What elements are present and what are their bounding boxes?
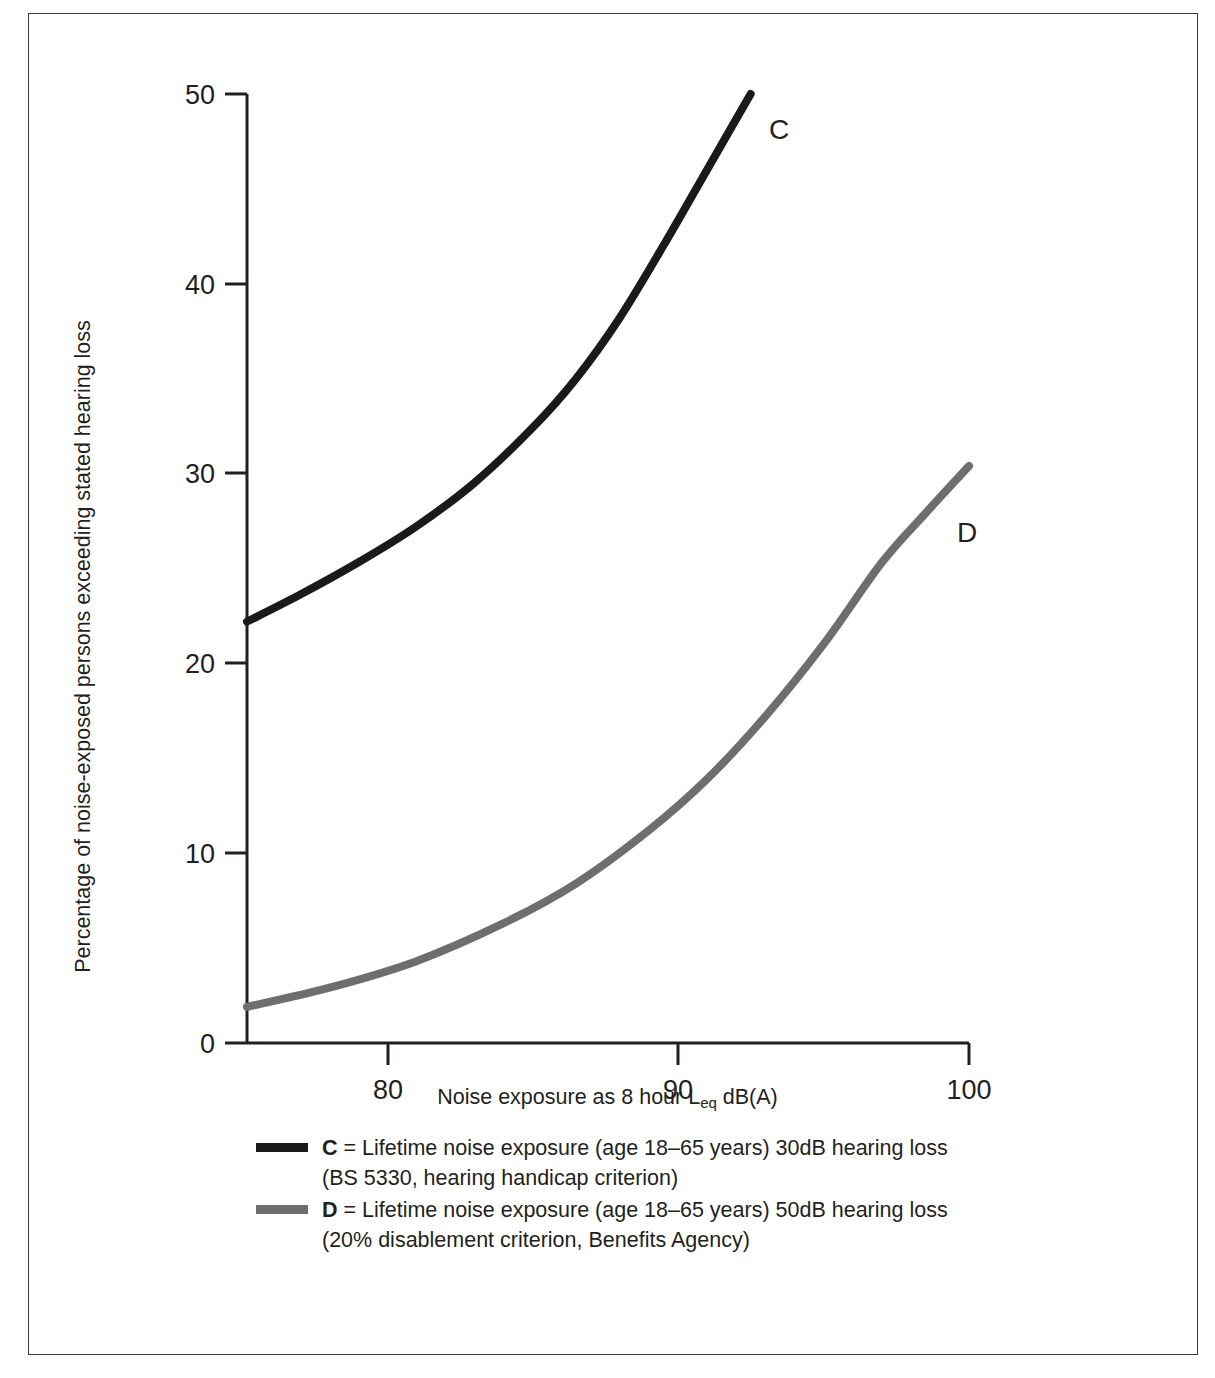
legend-equals-c: =	[338, 1136, 363, 1160]
x-axis-title-subscript: eq	[700, 1094, 717, 1111]
legend-description-d: Lifetime noise exposure (age 18–65 years…	[362, 1198, 948, 1222]
series-label-c: C	[769, 114, 789, 145]
y-tick-label-10: 10	[185, 839, 215, 869]
legend-entry-c: C = Lifetime noise exposure (age 18–65 y…	[256, 1134, 948, 1163]
x-axis-ticks	[388, 1043, 969, 1065]
legend-key-d: D	[322, 1198, 338, 1222]
x-axis-title-part1: Noise exposure as 8 hour L	[437, 1085, 700, 1109]
y-tick-label-20: 20	[185, 649, 215, 679]
y-tick-label-40: 40	[185, 270, 215, 300]
y-tick-label-50: 50	[185, 80, 215, 110]
chart-legend: C = Lifetime noise exposure (age 18–65 y…	[256, 1134, 948, 1258]
series-label-d: D	[957, 517, 977, 548]
series-line-d	[247, 466, 969, 1007]
series-line-c	[247, 94, 751, 622]
legend-swatch-c-icon	[256, 1143, 308, 1152]
x-axis-title-part2: dB(A)	[717, 1085, 778, 1109]
legend-swatch-d-icon	[256, 1205, 308, 1214]
legend-subtext-c: (BS 5330, hearing handicap criterion)	[322, 1164, 948, 1193]
legend-key-c: C	[322, 1136, 338, 1160]
legend-text-c: C = Lifetime noise exposure (age 18–65 y…	[322, 1134, 948, 1163]
legend-text-d: D = Lifetime noise exposure (age 18–65 y…	[322, 1196, 948, 1225]
x-axis-title: Noise exposure as 8 hour Leq dB(A)	[0, 1085, 1215, 1111]
y-tick-label-30: 30	[185, 459, 215, 489]
chart-plot-area: 50 40 30 20 10 0 80 90 100 C D	[29, 14, 1199, 1114]
y-tick-label-0: 0	[200, 1029, 215, 1059]
legend-subtext-d: (20% disablement criterion, Benefits Age…	[322, 1226, 948, 1255]
y-axis-ticks	[225, 94, 247, 1043]
y-axis-title: Percentage of noise-exposed persons exce…	[71, 297, 96, 997]
legend-equals-d: =	[338, 1198, 363, 1222]
legend-description-c: Lifetime noise exposure (age 18–65 years…	[362, 1136, 948, 1160]
legend-entry-d: D = Lifetime noise exposure (age 18–65 y…	[256, 1196, 948, 1225]
